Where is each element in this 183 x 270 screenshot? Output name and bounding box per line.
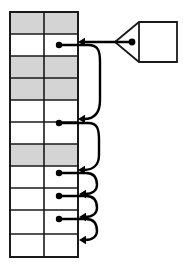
hash-table-diagram: Hash table with separate chaining	[0, 0, 183, 270]
bucket-array	[10, 12, 78, 257]
bucket-cell-value-8	[44, 188, 78, 210]
pointer-dot-dot-3	[56, 170, 62, 176]
bucket-cell-value-3	[44, 78, 78, 100]
bucket-cell-key-9	[10, 210, 44, 234]
pointer-dot-dot-2	[56, 120, 62, 126]
pointer-dot-dot-4	[56, 193, 62, 199]
bucket-cell-value-10	[44, 234, 78, 257]
bucket-cell-key-3	[10, 78, 44, 100]
bucket-cell-value-6	[44, 144, 78, 166]
bucket-cell-key-4	[10, 100, 44, 122]
bucket-cell-value-2	[44, 56, 78, 78]
bucket-cell-value-0	[44, 12, 78, 34]
bucket-cell-key-10	[10, 234, 44, 257]
pointer-dot-dot-1	[56, 42, 62, 48]
bucket-cell-key-6	[10, 144, 44, 166]
pointer-dot-dot-5	[56, 216, 62, 222]
chain-arrow-link-5	[79, 236, 86, 244]
diagram-canvas: Hash table with separate chaining	[0, 0, 183, 270]
bucket-cell-key-5	[10, 122, 44, 144]
bucket-cell-value-7	[44, 166, 78, 188]
bucket-cell-key-8	[10, 188, 44, 210]
bucket-cell-key-2	[10, 56, 44, 78]
bucket-cell-value-4	[44, 100, 78, 122]
bucket-cell-key-7	[10, 166, 44, 188]
bucket-cell-key-0	[10, 12, 44, 34]
bucket-cell-value-9	[44, 210, 78, 234]
bucket-cell-key-1	[10, 34, 44, 56]
